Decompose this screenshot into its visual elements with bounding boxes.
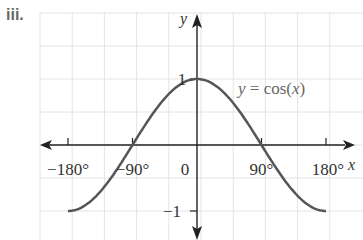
cosine-chart: −180°−90°090°180°1−1xy y = cos(x) — [0, 0, 363, 240]
x-tick-label: 180° — [312, 160, 344, 179]
x-axis-label: x — [347, 156, 355, 173]
grid — [40, 12, 363, 240]
y-tick-label: 1 — [178, 70, 187, 89]
x-tick-label: −90° — [116, 160, 149, 179]
y-axis-label: y — [178, 10, 188, 28]
x-tick-label: 0 — [181, 160, 190, 179]
function-label: y = cos(x) — [236, 79, 305, 98]
x-tick-label: −180° — [47, 160, 89, 179]
y-tick-label: −1 — [163, 202, 181, 221]
axes — [40, 14, 355, 240]
x-tick-label: 90° — [250, 160, 274, 179]
